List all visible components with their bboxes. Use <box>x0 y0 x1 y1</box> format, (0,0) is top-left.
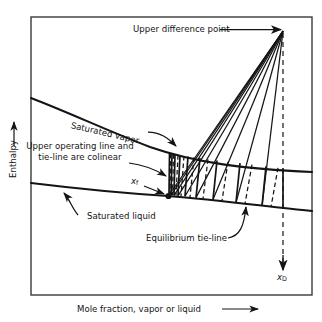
equilibrium-tie-line-label: Equilibrium tie-line <box>146 233 227 244</box>
feed-point-marker <box>165 193 171 199</box>
x-axis-label: Mole fraction, vapor or liquid <box>77 304 201 315</box>
operating-line-note-line2: tie-line are colinear <box>38 152 121 162</box>
distillate-subscript: D <box>282 275 287 283</box>
operating-line-note: Upper operating line and tie-line are co… <box>26 141 134 162</box>
y-axis-label: Enthalpy <box>8 129 18 189</box>
equilibrium-tie-line-text: Equilibrium tie-line <box>146 233 227 243</box>
operating-line-note-line1: Upper operating line and <box>26 141 133 151</box>
saturated-liquid-label: Saturated liquid <box>87 211 156 222</box>
feed-composition-label: xf <box>131 176 138 189</box>
distillate-composition-label: xD <box>277 272 287 285</box>
saturated-liquid-text: Saturated liquid <box>87 211 156 221</box>
feed-subscript: f <box>136 179 138 187</box>
upper-difference-point-label: Upper difference point <box>133 24 230 35</box>
